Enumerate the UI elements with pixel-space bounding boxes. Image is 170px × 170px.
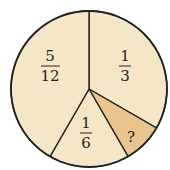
numerator: 1 — [81, 114, 91, 132]
denominator: 3 — [120, 67, 130, 85]
denominator: 6 — [81, 134, 91, 152]
numerator: 1 — [120, 47, 130, 65]
denominator: 12 — [40, 67, 59, 85]
label-one-sixth: 1 6 — [80, 114, 92, 152]
numerator: 5 — [45, 47, 55, 65]
label-one-third: 1 3 — [119, 47, 131, 85]
pie-diagram: 5 12 1 3 1 6 ? — [0, 0, 170, 170]
label-unknown: ? — [127, 128, 135, 146]
